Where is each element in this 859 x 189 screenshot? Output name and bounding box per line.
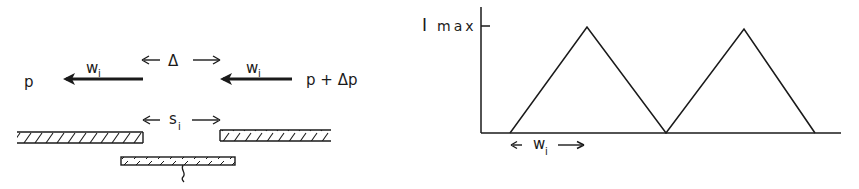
imax-label-base: I bbox=[422, 15, 427, 35]
slit-width-subscript: i bbox=[178, 121, 181, 132]
plate-right bbox=[220, 130, 331, 141]
flow-arrow-left: w i bbox=[63, 59, 143, 85]
flow-right-subscript: i bbox=[258, 68, 261, 79]
imax-label-rest: max bbox=[437, 18, 477, 34]
support-squiggle-icon bbox=[182, 165, 184, 182]
intensity-series-line bbox=[510, 27, 815, 133]
flow-left-label: w bbox=[86, 59, 98, 77]
gap-delta-dimension: Δ bbox=[142, 52, 220, 70]
flow-arrow-right: w i bbox=[220, 59, 292, 85]
base-width-subscript: i bbox=[545, 146, 548, 157]
slit-width-dimension: s i bbox=[143, 110, 220, 132]
base-width-dimension: w i bbox=[511, 135, 584, 157]
flow-left-subscript: i bbox=[98, 68, 101, 79]
pressure-left-label: p bbox=[24, 73, 34, 91]
plate-bottom bbox=[121, 157, 235, 182]
delta-label: Δ bbox=[168, 52, 179, 70]
plate-left bbox=[17, 132, 143, 143]
slit-schematic: p w i Δ w i bbox=[17, 52, 357, 182]
pressure-right-label: p + Δp bbox=[306, 71, 357, 89]
intensity-profile-chart: I max w i bbox=[422, 7, 841, 157]
figure: p w i Δ w i bbox=[0, 0, 859, 189]
flow-right-label: w bbox=[246, 59, 258, 77]
base-width-label: w bbox=[533, 135, 545, 153]
slit-width-label: s bbox=[169, 110, 177, 128]
